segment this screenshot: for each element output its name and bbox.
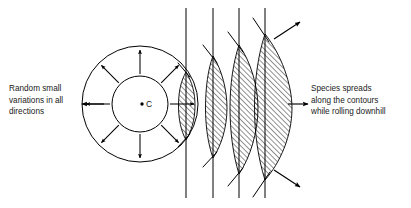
center-point-label: C: [146, 99, 152, 109]
diagonal-stroke-2-bottom: [203, 152, 217, 167]
diagonal-stroke-3-bottom: [228, 168, 243, 186]
radial-arrow-ne: [161, 65, 178, 82]
diagonal-stroke-4-top: [253, 18, 269, 42]
diagonal-stroke-2-top: [203, 45, 217, 63]
diagonal-stroke-1-top: [178, 63, 190, 77]
lower-right-spread-arrow: [274, 170, 300, 187]
caption-right: Species spreads along the contours while…: [311, 83, 386, 118]
lens-shape-2: [206, 56, 228, 158]
lens-shape-4: [255, 34, 293, 180]
radial-arrow-nw: [101, 65, 118, 82]
radial-arrow-se: [161, 125, 178, 142]
radial-arrow-sw: [101, 125, 118, 142]
caption-left: Random small variations in all direction…: [9, 83, 63, 118]
diagram-figure: Random small variations in all direction…: [0, 0, 411, 208]
lens-shape-1: [179, 72, 196, 140]
lens-group: [179, 34, 293, 180]
inner-circle: [112, 76, 168, 132]
diagonal-stroke-4-bottom: [253, 172, 270, 197]
lens-shape-3: [230, 45, 258, 174]
upper-right-spread-arrow: [274, 22, 300, 39]
diagonal-stroke-3-top: [228, 32, 243, 52]
center-dot: [140, 102, 143, 105]
